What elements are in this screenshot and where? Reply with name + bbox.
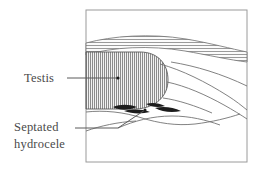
figure-root: Testis Septated hydrocele xyxy=(0,0,255,172)
leader-endpoint-dot xyxy=(144,109,147,112)
label-septated-line1: Septated xyxy=(14,120,59,134)
testis-body xyxy=(86,52,168,109)
label-septated-line2: hydrocele xyxy=(14,137,65,151)
leader-endpoint-dot xyxy=(116,76,119,79)
diagram-svg: Testis Septated hydrocele xyxy=(0,0,255,172)
label-testis: Testis xyxy=(24,71,54,85)
